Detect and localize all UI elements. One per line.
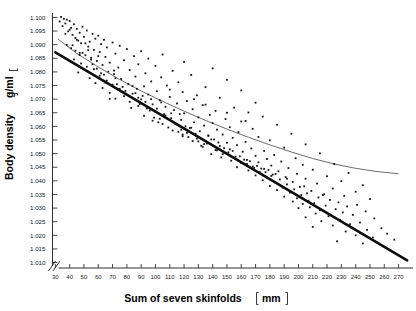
scatter-point — [206, 143, 208, 145]
scatter-point — [64, 23, 66, 25]
scatter-point — [230, 160, 232, 162]
scatter-point — [67, 30, 69, 32]
scatter-point — [115, 77, 117, 79]
scatter-point — [336, 240, 338, 242]
scatter-point — [306, 192, 308, 194]
scatter-point — [216, 149, 218, 151]
scatter-point — [140, 99, 142, 101]
scatter-point — [130, 107, 132, 109]
scatter-point — [143, 85, 145, 87]
scatter-point — [240, 162, 242, 164]
x-tick-label: 200 — [293, 274, 304, 280]
scatter-point — [372, 237, 374, 239]
y-tick-label: 1.070 — [30, 95, 46, 102]
scatter-point — [93, 49, 95, 51]
scatter-point — [62, 25, 64, 27]
scatter-point — [190, 74, 192, 76]
y-axis-title: Body density — [3, 114, 15, 180]
x-tick-label: 90 — [138, 274, 145, 280]
scatter-point — [89, 41, 91, 43]
scatter-point — [349, 223, 351, 225]
scatter-point — [362, 184, 364, 186]
scatter-point — [80, 42, 82, 44]
scatter-point — [96, 68, 98, 70]
scatter-point — [210, 153, 212, 155]
scatter-point — [77, 72, 79, 74]
scatter-point — [338, 201, 340, 203]
scatter-point — [79, 32, 81, 34]
scatter-point — [106, 80, 108, 82]
scatter-point — [258, 161, 260, 163]
scatter-point — [143, 115, 145, 117]
scatter-point — [315, 213, 317, 215]
scatter-point — [146, 108, 148, 110]
scatter-point — [87, 49, 89, 51]
scatter-point — [236, 166, 238, 168]
scatter-point — [276, 124, 278, 126]
scatter-point — [196, 94, 198, 96]
scatter-point — [262, 179, 264, 181]
scatter-point — [133, 55, 135, 57]
scatter-point — [195, 133, 197, 135]
linear-fit-path — [55, 52, 407, 260]
scatter-point — [93, 68, 95, 70]
scatter-point — [285, 176, 287, 178]
scatter-point — [129, 101, 131, 103]
scatter-point — [246, 159, 248, 161]
scatter-point — [156, 90, 158, 92]
scatter-point — [179, 125, 181, 127]
linear-regression-line — [55, 52, 407, 260]
scatter-point — [147, 58, 149, 60]
scatter-point — [335, 208, 337, 210]
scatter-point — [136, 88, 138, 90]
scatter-point — [205, 86, 207, 88]
scatter-point — [150, 81, 152, 83]
scatter-point — [235, 158, 237, 160]
scatter-point — [84, 42, 86, 44]
scatter-point — [185, 125, 187, 127]
scatter-point — [132, 93, 134, 95]
scatter-point — [288, 167, 290, 169]
scatter-point — [115, 98, 117, 100]
scatter-point — [256, 165, 258, 167]
scatter-point — [216, 129, 218, 131]
scatter-point — [229, 148, 231, 150]
scatter-point — [70, 27, 72, 29]
scatter-point — [179, 113, 181, 115]
scatter-point — [292, 201, 294, 203]
scatter-point — [302, 203, 304, 205]
scatter-point — [137, 63, 139, 65]
scatter-point — [113, 70, 115, 72]
scatter-point — [152, 103, 154, 105]
scatter-point — [116, 83, 118, 85]
scatter-point — [176, 103, 178, 105]
scatter-point — [64, 33, 66, 35]
scatter-point — [295, 157, 297, 159]
scatter-point — [240, 121, 242, 123]
scatter-point — [105, 56, 107, 58]
x-tick-label: 130 — [193, 274, 204, 280]
scatter-point — [197, 140, 199, 142]
scatter-point — [177, 131, 179, 133]
y-tick-label: 1.095 — [30, 27, 46, 34]
scatter-point — [100, 72, 102, 74]
scatter-point — [126, 48, 128, 50]
scatter-point — [322, 194, 324, 196]
scatter-point — [248, 170, 250, 172]
scatter-point — [213, 139, 215, 141]
y-tick-label: 1.100 — [30, 14, 46, 21]
scatter-point — [219, 97, 221, 99]
scatter-point — [156, 108, 158, 110]
scatter-point — [270, 175, 272, 177]
scatter-point — [175, 123, 177, 125]
scatter-point — [252, 128, 254, 130]
scatter-point — [129, 69, 131, 71]
scatter-point — [312, 169, 314, 171]
scatter-point — [238, 131, 240, 133]
scatter-point — [326, 175, 328, 177]
scatter-point — [125, 90, 127, 92]
scatter-point — [203, 125, 205, 127]
scatter-point — [263, 150, 265, 152]
scatter-point — [212, 67, 214, 69]
scatter-point — [207, 135, 209, 137]
